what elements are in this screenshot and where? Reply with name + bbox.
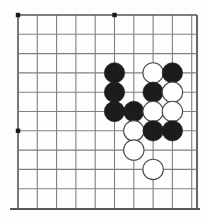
star-point [16, 129, 20, 133]
black-stone[interactable] [162, 121, 182, 141]
black-stone[interactable] [104, 82, 124, 102]
black-stone[interactable] [162, 63, 182, 83]
white-stone[interactable] [124, 121, 144, 141]
black-stone[interactable] [124, 101, 144, 121]
go-board-canvas [0, 0, 207, 217]
star-point [112, 13, 116, 17]
black-stone[interactable] [143, 82, 163, 102]
white-stone[interactable] [143, 63, 163, 83]
black-stone[interactable] [104, 101, 124, 121]
white-stone[interactable] [162, 101, 182, 121]
white-stone[interactable] [143, 101, 163, 121]
white-stone[interactable] [162, 82, 182, 102]
star-point [16, 13, 20, 17]
go-board-diagram [0, 0, 207, 217]
white-stone[interactable] [124, 140, 144, 160]
black-stone[interactable] [143, 121, 163, 141]
white-stone[interactable] [143, 159, 163, 179]
black-stone[interactable] [104, 63, 124, 83]
